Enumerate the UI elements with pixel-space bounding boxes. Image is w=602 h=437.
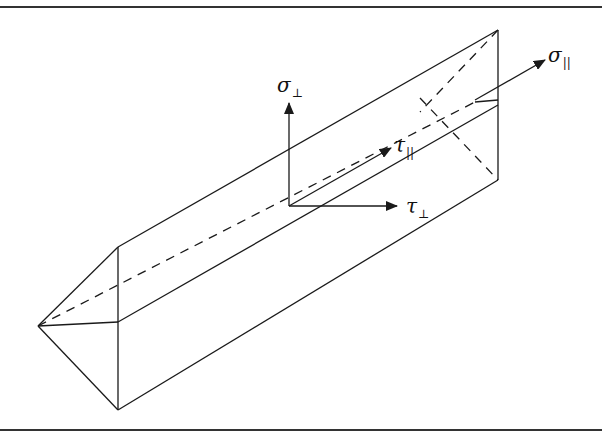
front-edge-bottom — [38, 326, 118, 410]
middle-longitudinal-edge — [118, 105, 498, 322]
tau-par-label: τ|| — [394, 133, 414, 160]
sigma-par-label: σ|| — [548, 43, 571, 70]
sigma-perp-label: σ⊥ — [277, 73, 303, 100]
sigma-par-arrow — [475, 60, 545, 100]
front-edge-top — [38, 247, 118, 326]
front-edge-mid — [38, 322, 118, 326]
prism-diagram: σ⊥ τ⊥ τ|| σ|| — [0, 0, 602, 437]
hidden-back-edge-lower — [420, 98, 498, 180]
tau-par-arrow — [289, 148, 391, 206]
back-center-segment — [475, 100, 498, 102]
tau-perp-label: τ⊥ — [406, 194, 429, 221]
hidden-back-edge-upper — [420, 30, 498, 112]
